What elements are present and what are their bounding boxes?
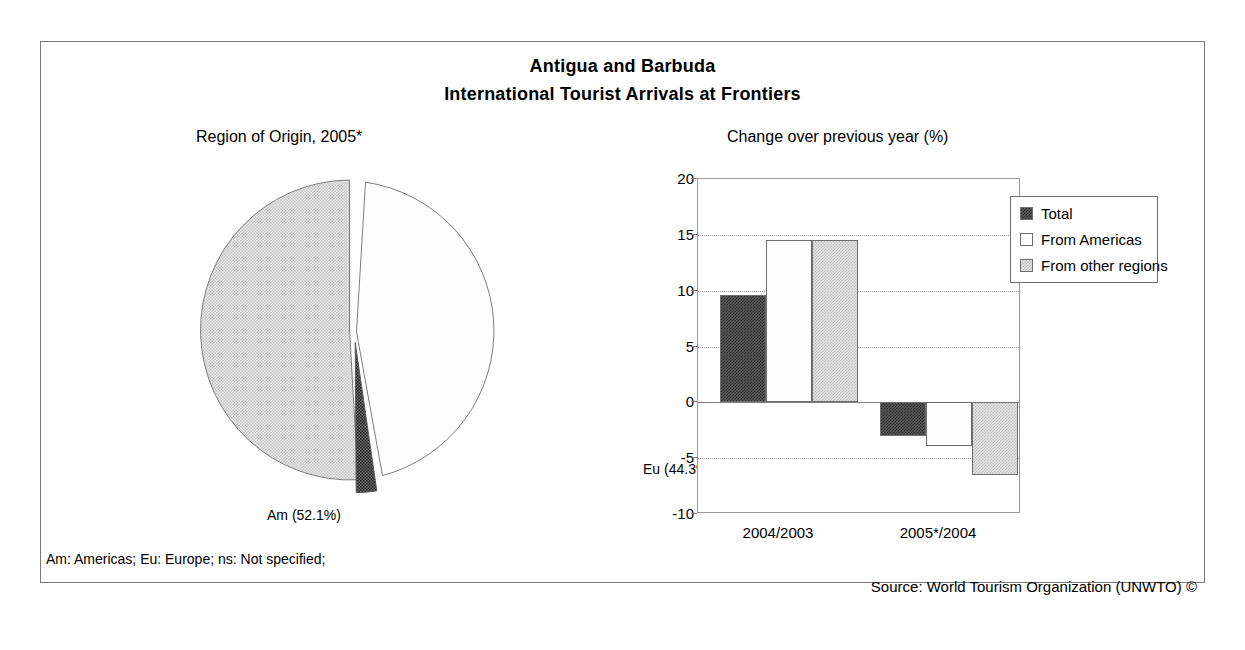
pie-slice-eu <box>357 182 494 475</box>
legend-item-americas: From Americas <box>1020 231 1149 248</box>
pie-label-am: Am (52.1%) <box>267 507 341 523</box>
pie-chart-svg <box>180 165 540 505</box>
bar-2004-2003-americas <box>766 240 812 402</box>
y-tick-label-15: 15 <box>640 226 694 243</box>
bar-2004-2003-other-regions <box>812 240 858 402</box>
pie-slice-am <box>201 180 359 480</box>
chart-title-line2: International Tourist Arrivals at Fronti… <box>0 84 1245 105</box>
legend-swatch-americas-icon <box>1020 233 1033 246</box>
legend-swatch-total-icon <box>1020 207 1033 220</box>
y-tick-label-20: 20 <box>640 170 694 187</box>
x-tick-label-2005-2004: 2005*/2004 <box>858 524 1018 541</box>
source-note: Source: World Tourism Organization (UNWT… <box>871 578 1197 595</box>
pie-chart: Am (52.1%) Eu (44.3%) ns (3.6%) <box>180 165 540 505</box>
y-tick-label-10: 10 <box>640 282 694 299</box>
y-tick-label-neg5: -5 <box>640 449 694 466</box>
legend-label-americas: From Americas <box>1041 231 1142 248</box>
bar-chart-plot-area <box>697 178 1020 513</box>
legend-swatch-other-regions-icon <box>1020 259 1033 272</box>
bar-2005-2004-total <box>880 402 926 436</box>
bar-chart-subtitle: Change over previous year (%) <box>727 128 948 146</box>
legend-item-total: Total <box>1020 205 1149 222</box>
x-tick-label-2004-2003: 2004/2003 <box>698 524 858 541</box>
gridline-neg5 <box>698 458 1019 459</box>
chart-page: Antigua and Barbuda International Touris… <box>0 0 1245 650</box>
gridline-10 <box>698 291 1019 292</box>
bar-chart-legend: Total From Americas From other regions <box>1010 196 1158 283</box>
y-tick-label-5: 5 <box>640 338 694 355</box>
abbreviation-footnote: Am: Americas; Eu: Europe; ns: Not specif… <box>46 551 325 567</box>
y-tick-mark-neg10 <box>691 513 697 514</box>
bar-2005-2004-other-regions <box>972 402 1018 475</box>
chart-title-line1: Antigua and Barbuda <box>0 56 1245 77</box>
legend-item-other-regions: From other regions <box>1020 257 1149 274</box>
legend-label-total: Total <box>1041 205 1073 222</box>
bar-2005-2004-americas <box>926 402 972 446</box>
y-tick-label-0: 0 <box>640 393 694 410</box>
y-tick-label-neg10: -10 <box>640 505 694 522</box>
legend-label-other-regions: From other regions <box>1041 257 1168 274</box>
bar-2004-2003-total <box>720 295 766 402</box>
gridline-15 <box>698 235 1019 236</box>
pie-chart-subtitle: Region of Origin, 2005* <box>196 128 362 146</box>
